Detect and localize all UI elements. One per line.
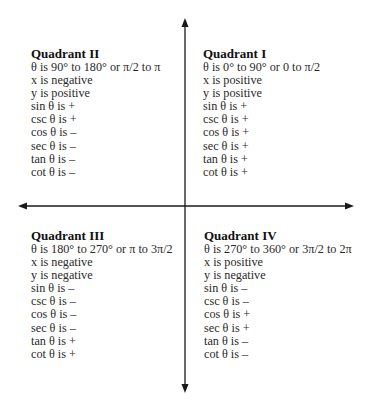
quadrant-iv-tan-sign: tan θ is – — [204, 335, 352, 348]
quadrant-ii-sec-sign: sec θ is – — [31, 140, 160, 153]
quadrant-iv-panel: Quadrant IV θ is 270° to 360° or 3π/2 to… — [204, 229, 352, 361]
quadrant-iv-cot-sign: cot θ is – — [204, 348, 352, 361]
quadrant-iv-cos-sign: cos θ is + — [204, 308, 352, 321]
y-axis-up-arrow-icon — [182, 18, 189, 27]
quadrant-i-tan-sign: tan θ is + — [203, 153, 320, 166]
x-axis-right-arrow-icon — [345, 203, 354, 210]
quadrant-iii-tan-sign: tan θ is + — [31, 335, 173, 348]
quadrant-ii-cos-sign: cos θ is – — [31, 126, 160, 139]
x-axis — [18, 203, 354, 210]
y-axis-down-arrow-icon — [182, 384, 189, 393]
quadrant-iv-title: Quadrant IV — [204, 229, 352, 243]
quadrant-iii-cos-sign: cos θ is – — [31, 308, 173, 321]
quadrant-iv-sec-sign: sec θ is + — [204, 322, 352, 335]
quadrant-i-panel: Quadrant I θ is 0° to 90° or 0 to π/2 x … — [203, 47, 320, 179]
quadrant-i-cos-sign: cos θ is + — [203, 126, 320, 139]
quadrant-i-title: Quadrant I — [203, 47, 320, 61]
quadrant-ii-cot-sign: cot θ is – — [31, 166, 160, 179]
x-axis-left-arrow-icon — [18, 203, 27, 210]
quadrant-iii-title: Quadrant III — [31, 229, 173, 243]
quadrant-i-sec-sign: sec θ is + — [203, 140, 320, 153]
quadrant-iii-panel: Quadrant III θ is 180° to 270° or π to 3… — [31, 229, 173, 361]
quadrant-iii-sec-sign: sec θ is – — [31, 322, 173, 335]
quadrant-ii-title: Quadrant II — [31, 47, 160, 61]
quadrant-ii-panel: Quadrant II θ is 90° to 180° or π/2 to π… — [31, 47, 160, 179]
quadrant-iii-cot-sign: cot θ is + — [31, 348, 173, 361]
quadrant-i-cot-sign: cot θ is + — [203, 166, 320, 179]
quadrant-ii-tan-sign: tan θ is – — [31, 153, 160, 166]
